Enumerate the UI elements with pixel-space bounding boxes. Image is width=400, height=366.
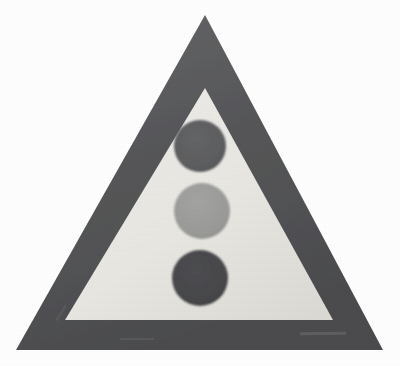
bottom-lamp-circle [172,250,228,306]
sign-image-canvas [0,0,400,366]
warning-sign-graphic [0,0,400,366]
traffic-lamp-stack [172,120,230,306]
middle-lamp-circle [174,183,230,239]
top-lamp-circle [174,120,226,172]
